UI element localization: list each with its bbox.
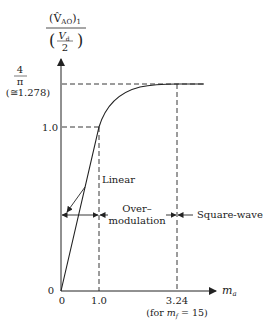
svg-text:π: π — [17, 76, 24, 87]
y-tick-1: 1.0 — [42, 122, 58, 133]
chart-svg: (V̂AO)1 ( ) Vd 2 4 π (≅1.278) 1.0 0 0 1.… — [0, 0, 265, 328]
svg-text:(: ( — [49, 31, 55, 50]
svg-text:(≅1.278): (≅1.278) — [6, 87, 51, 98]
x-tick-3-24: 3.24 — [166, 295, 188, 306]
svg-text:Vd: Vd — [58, 30, 69, 42]
region-over-label-2: modulation — [108, 215, 166, 226]
reference-lines — [62, 84, 206, 291]
region-over-label-1: Over– — [122, 203, 152, 214]
svg-text:4: 4 — [17, 64, 23, 75]
svg-text:): ) — [77, 31, 83, 50]
modulation-diagram: (V̂AO)1 ( ) Vd 2 4 π (≅1.278) 1.0 0 0 1.… — [0, 0, 265, 328]
y-tick-0: 0 — [48, 285, 54, 296]
x-tick-0: 0 — [59, 295, 65, 306]
fundamental-curve — [61, 84, 204, 291]
region-linear-label: Linear — [102, 174, 135, 185]
y-axis-label: (V̂AO)1 ( ) Vd 2 — [46, 12, 86, 53]
x-tick-note: (for mf = 15) — [146, 307, 208, 320]
y-tick-4-over-pi: 4 π (≅1.278) — [6, 64, 51, 98]
svg-text:(V̂AO)1: (V̂AO)1 — [49, 12, 81, 26]
x-tick-1: 1.0 — [91, 295, 107, 306]
region-square-label: Square-wave — [197, 209, 263, 220]
x-axis-label: ma — [222, 284, 237, 298]
svg-text:2: 2 — [62, 42, 68, 53]
